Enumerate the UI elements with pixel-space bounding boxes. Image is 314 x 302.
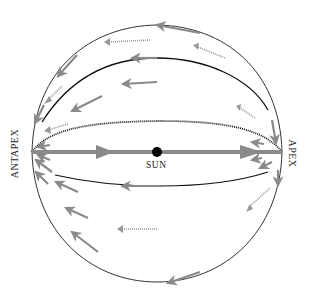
faint-motion-arrows xyxy=(48,40,270,229)
sun-dot xyxy=(152,147,162,157)
antapex-label: ANTAPEX xyxy=(9,126,20,182)
faint-arrow-heads xyxy=(44,38,253,233)
lower-meridian-arc xyxy=(55,172,268,186)
upper-meridian-arc xyxy=(42,58,268,122)
solar-motion-diagram xyxy=(0,0,314,302)
apex-label: APEX xyxy=(287,134,298,174)
sun-label: SUN xyxy=(146,160,167,170)
